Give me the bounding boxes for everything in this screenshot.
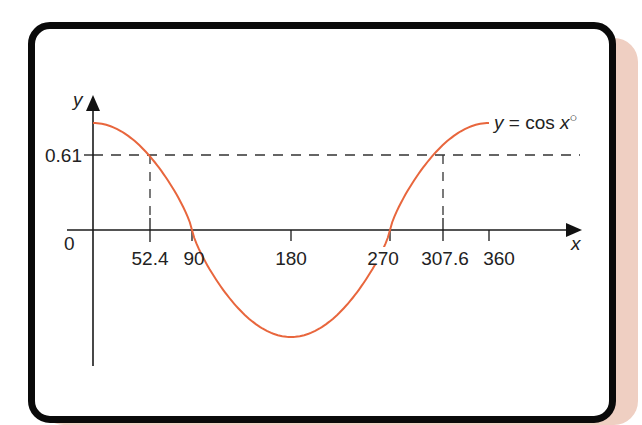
x-tick-label: 270 — [367, 248, 399, 269]
y-axis-arrow-icon — [86, 95, 100, 111]
x-tick-label: 90 — [183, 248, 204, 269]
x-axis-label: x — [570, 233, 582, 254]
cosine-graph: y x 0 0.61 52.4 90 180 270 307.6 360 y =… — [0, 0, 642, 425]
x-tick-label: 180 — [275, 248, 307, 269]
origin-label: 0 — [64, 233, 75, 254]
curve-label: y = cos x○ — [492, 110, 577, 133]
x-tick-label: 307.6 — [421, 248, 469, 269]
x-tick-label: 360 — [483, 248, 515, 269]
x-tick-label: 52.4 — [132, 248, 169, 269]
y-marker-label: 0.61 — [45, 145, 82, 166]
y-axis-label: y — [71, 89, 84, 110]
